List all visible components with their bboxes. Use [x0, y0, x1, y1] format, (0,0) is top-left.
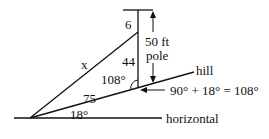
- hypotenuse-label: x: [81, 58, 88, 71]
- angle-108-label: 108°: [101, 73, 126, 86]
- segment-top-label: 6: [125, 18, 132, 31]
- segment-bottom-label: 44: [122, 55, 135, 68]
- pole-label-line1: 50 ft: [145, 35, 169, 48]
- hill-length-label: 75: [83, 92, 96, 105]
- angle-equation-label: 90° + 18° = 108°: [170, 84, 259, 97]
- hill-label: hill: [196, 64, 213, 77]
- horizontal-label: horizontal: [166, 112, 219, 125]
- diagram-lines: [0, 0, 269, 139]
- pole-label-line2: pole: [146, 49, 168, 62]
- hill-angle-label: 18°: [70, 108, 88, 121]
- pole-on-hill-diagram: 6 44 50 ft pole x 108° 75 18° hill horiz…: [0, 0, 269, 139]
